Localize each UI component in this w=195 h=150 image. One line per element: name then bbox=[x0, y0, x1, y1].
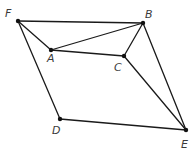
point-F bbox=[16, 19, 20, 23]
label-A: A bbox=[46, 52, 55, 65]
label-B: B bbox=[145, 8, 153, 21]
point-E bbox=[184, 128, 188, 132]
labels: F B A C D E bbox=[5, 7, 188, 150]
segment-FA bbox=[18, 21, 51, 50]
point-B bbox=[141, 21, 145, 25]
label-F: F bbox=[5, 7, 12, 20]
segment-CE bbox=[124, 56, 186, 130]
label-D: D bbox=[52, 124, 60, 137]
segment-FB bbox=[18, 21, 143, 23]
segments bbox=[18, 21, 186, 130]
segment-DE bbox=[60, 119, 186, 130]
label-E: E bbox=[181, 138, 188, 150]
geometry-diagram: F B A C D E bbox=[0, 0, 195, 150]
segment-BE bbox=[143, 23, 186, 130]
label-C: C bbox=[114, 61, 122, 74]
segment-FD bbox=[18, 21, 60, 119]
point-C bbox=[122, 54, 126, 58]
point-D bbox=[58, 117, 62, 121]
segment-AC bbox=[51, 50, 124, 56]
